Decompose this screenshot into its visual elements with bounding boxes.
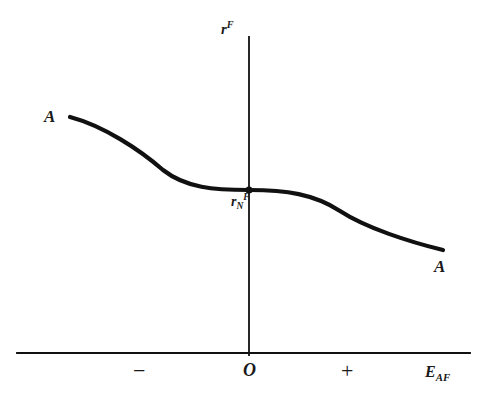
x-tick-label-origin: O — [243, 361, 256, 379]
y-axis-label-superscript: F — [227, 19, 234, 30]
x-axis-label-subscript: AF — [436, 371, 451, 383]
curve-a-a — [70, 117, 443, 250]
x-tick-label-negative: − — [133, 360, 145, 382]
x-axis-label: EAF — [425, 364, 450, 383]
x-axis-label-base: E — [425, 363, 436, 380]
curve-label-lower-right: A — [434, 258, 445, 275]
curve-label-upper-left: A — [44, 108, 55, 125]
plateau-value-label: rNF — [231, 193, 250, 212]
plateau-label-superscript: F — [243, 192, 249, 202]
x-tick-label-positive: + — [341, 360, 353, 382]
plateau-label-subscript: N — [236, 201, 243, 211]
figure-container: rF EAF rNF − O + A A — [0, 0, 496, 403]
y-axis-label: rF — [221, 20, 234, 37]
